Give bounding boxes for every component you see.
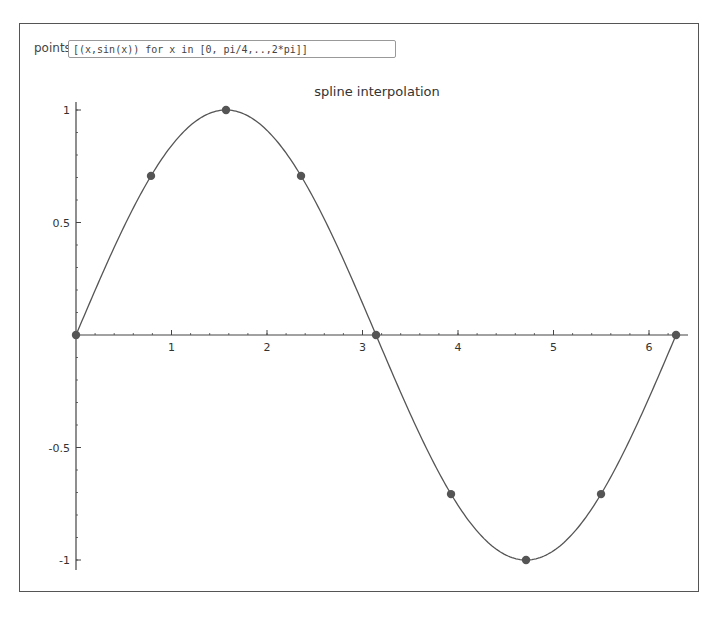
x-tick-label: 4 [455,341,462,354]
y-tick-label: 1 [63,104,70,117]
axes: 12345610.5-0.5-1 [49,102,688,570]
spline-plot: spline interpolation 12345610.5-0.5-1 [0,0,723,622]
data-point-marker [522,556,530,564]
x-tick-label: 1 [168,341,175,354]
data-point-marker [372,331,380,339]
x-tick-label: 5 [550,341,557,354]
data-point-marker [597,490,605,498]
data-point-marker [447,490,455,498]
data-point-marker [147,172,155,180]
chart-title: spline interpolation [314,84,440,99]
y-tick-label: 0.5 [53,217,71,230]
y-tick-label: -0.5 [49,442,70,455]
y-tick-label: -1 [59,554,70,567]
data-point-marker [297,172,305,180]
data-point-marker [222,106,230,114]
data-point-marker [672,331,680,339]
x-tick-label: 3 [359,341,366,354]
x-tick-label: 6 [646,341,653,354]
x-tick-label: 2 [264,341,271,354]
data-point-marker [72,331,80,339]
